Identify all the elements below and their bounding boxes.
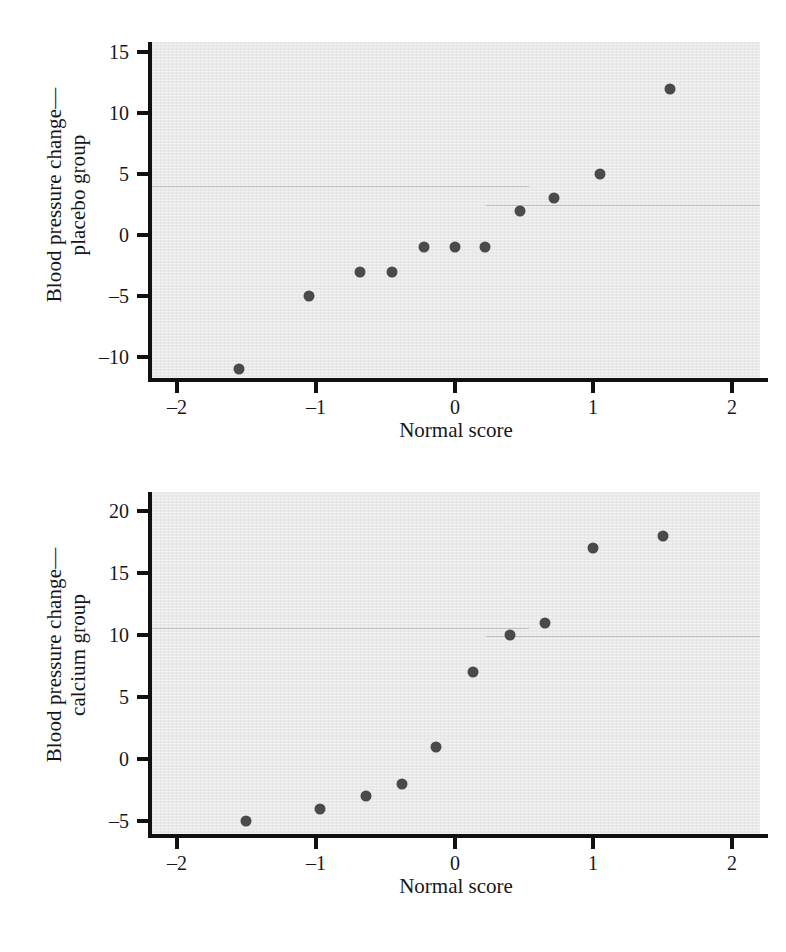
y-axis-line-calcium <box>148 492 152 838</box>
scatter-point <box>480 242 491 253</box>
scatter-point <box>549 193 560 204</box>
x-axis-line-calcium <box>148 834 768 838</box>
x-axis-title-calcium: Normal score <box>152 874 760 899</box>
reference-line <box>152 628 529 629</box>
scatter-point <box>355 266 366 277</box>
x-tick-label: –2 <box>147 396 207 419</box>
x-tick-mark <box>453 382 457 393</box>
chart-placebo-normal-probability-plot: 151050–5–10 –2–1012 Blood pressure chang… <box>0 0 786 470</box>
y-tick-mark <box>137 509 148 513</box>
x-axis-line-placebo <box>148 378 768 382</box>
x-tick-label: –1 <box>286 396 346 419</box>
x-tick-mark <box>175 382 179 393</box>
scatter-point <box>418 242 429 253</box>
y-tick-mark <box>137 111 148 115</box>
x-tick-mark <box>314 838 318 849</box>
scatter-point <box>360 791 371 802</box>
x-tick-mark <box>730 382 734 393</box>
y-tick-mark <box>137 819 148 823</box>
scatter-point <box>303 291 314 302</box>
x-tick-label: 2 <box>702 852 762 875</box>
x-axis-title-placebo: Normal score <box>152 418 760 443</box>
scatter-point <box>505 630 516 641</box>
scatter-point <box>396 778 407 789</box>
scatter-point <box>514 205 525 216</box>
reference-line <box>486 205 760 206</box>
scatter-point <box>314 803 325 814</box>
scatter-point <box>657 530 668 541</box>
scatter-point <box>588 543 599 554</box>
scatter-point <box>449 242 460 253</box>
x-tick-mark <box>730 838 734 849</box>
x-tick-label: 2 <box>702 396 762 419</box>
y-tick-mark <box>137 355 148 359</box>
scatter-point <box>595 169 606 180</box>
y-axis-line-placebo <box>148 42 152 382</box>
x-tick-mark <box>175 838 179 849</box>
x-tick-mark <box>591 838 595 849</box>
scatter-point <box>467 667 478 678</box>
x-tick-mark <box>591 382 595 393</box>
scatter-point <box>539 617 550 628</box>
x-tick-label: 1 <box>563 396 623 419</box>
scatter-point <box>664 83 675 94</box>
y-tick-mark <box>137 50 148 54</box>
y-tick-mark <box>137 294 148 298</box>
y-tick-mark <box>137 695 148 699</box>
scatter-point <box>234 364 245 375</box>
x-tick-mark <box>453 838 457 849</box>
reference-line <box>486 636 760 637</box>
x-tick-label: –1 <box>286 852 346 875</box>
scatter-point <box>387 266 398 277</box>
plot-area-calcium <box>152 492 760 834</box>
chart-calcium-normal-probability-plot: 20151050–5 –2–1012 Blood pressure change… <box>0 470 786 952</box>
reference-line <box>152 186 529 187</box>
y-tick-mark <box>137 571 148 575</box>
x-tick-label: 0 <box>425 396 485 419</box>
x-tick-label: 1 <box>563 852 623 875</box>
y-tick-mark <box>137 172 148 176</box>
x-tick-label: 0 <box>425 852 485 875</box>
y-axis-title-placebo: Blood pressure change— placebo group <box>42 35 91 355</box>
x-tick-mark <box>314 382 318 393</box>
y-axis-title-calcium: Blood pressure change— calcium group <box>42 490 91 820</box>
y-tick-mark <box>137 233 148 237</box>
plot-panel-calcium: 20151050–5 –2–1012 Blood pressure change… <box>0 470 786 952</box>
y-tick-mark <box>137 633 148 637</box>
x-tick-label: –2 <box>147 852 207 875</box>
y-tick-mark <box>137 757 148 761</box>
plot-panel-placebo: 151050–5–10 –2–1012 Blood pressure chang… <box>0 0 786 470</box>
scatter-point <box>431 741 442 752</box>
scatter-point <box>241 816 252 827</box>
